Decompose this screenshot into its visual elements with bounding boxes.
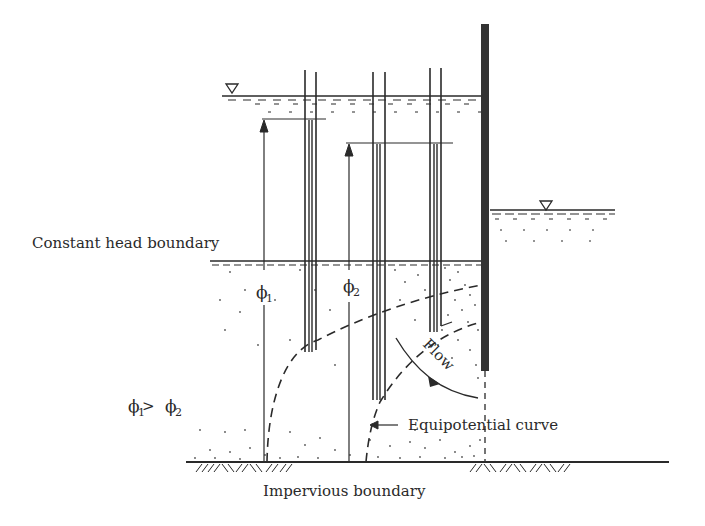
- phi-relation-label: ϕ 1 > ϕ 2: [128, 396, 182, 419]
- right-water-surface: [490, 201, 615, 241]
- equipotential-curve-1: [267, 285, 482, 462]
- svg-text:2: 2: [353, 286, 360, 299]
- svg-text:2: 2: [175, 406, 182, 419]
- equipotential-curves: [267, 285, 482, 462]
- constant-head-line: [210, 261, 484, 265]
- water-surface-triangle-icon: [226, 84, 238, 93]
- impervious-boundary-label: Impervious boundary: [263, 482, 426, 500]
- phi2-label: ϕ 2: [343, 276, 360, 299]
- svg-text:1: 1: [266, 292, 273, 305]
- seepage-diagram: Constant head boundary Impervious bounda…: [0, 0, 705, 526]
- flow-label: Flow: [419, 335, 458, 374]
- phi1-label: ϕ 1: [256, 282, 273, 305]
- equipotential-curve-label: Equipotential curve: [408, 416, 558, 434]
- left-water-surface: [222, 84, 488, 112]
- head-arrow-phi2: [345, 144, 353, 462]
- constant-head-label: Constant head boundary: [32, 234, 220, 252]
- impervious-boundary-line: [186, 462, 669, 472]
- sheet-pile: [481, 24, 489, 371]
- equipotential-pointer: [370, 421, 398, 429]
- svg-text:>: >: [142, 397, 155, 415]
- diagram-canvas: Constant head boundary Impervious bounda…: [0, 0, 705, 526]
- piezometer-3: [430, 68, 452, 332]
- piezometer-1: [262, 70, 326, 352]
- water-surface-triangle-icon: [540, 201, 552, 210]
